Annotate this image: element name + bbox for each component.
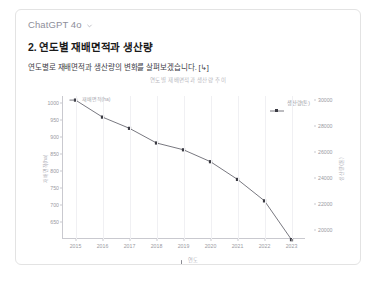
x-tick-label: 2018	[151, 243, 163, 249]
gridline-vertical	[184, 96, 185, 239]
y-tick-mark-left	[60, 136, 62, 137]
x-tick-mark	[237, 239, 238, 241]
model-selector[interactable]: ChatGPT 4o	[28, 19, 93, 30]
chart-plot-area: 2015201620172018201920202021202220231000…	[62, 96, 305, 239]
x-tick-mark	[75, 239, 76, 241]
chart-title: 연도별 재배면적과 생산량 추이	[16, 76, 360, 84]
y-tick-label-left: 800	[50, 168, 59, 174]
x-tick-label: 2021	[232, 243, 244, 249]
y-tick-mark-right	[314, 177, 316, 178]
chart-container: 연도별 재배면적과 생산량 추이 재배면적(ha) 생산량(톤) 생산량(톤) …	[16, 74, 360, 264]
y-tick-label-left: 1000	[47, 100, 59, 106]
y-tick-mark-left	[60, 221, 62, 222]
series-inline-annotation: 재배면적(ha)	[82, 95, 111, 102]
x-tick-mark	[129, 239, 130, 241]
y-tick-mark-right	[314, 151, 316, 152]
section-subtitle: 연도별로 재배면적과 생산량의 변화를 살펴보겠습니다. [↳]	[28, 61, 209, 72]
chevron-down-icon[interactable]	[86, 22, 93, 29]
x-tick-label: 2019	[178, 243, 190, 249]
x-tick-label: 2017	[124, 243, 136, 249]
y-tick-mark-left	[60, 170, 62, 171]
x-tick-mark	[210, 239, 211, 241]
y-tick-mark-right	[314, 203, 316, 204]
gridline-vertical	[265, 96, 266, 239]
y-axis-right-label: 생산량(톤)	[337, 157, 344, 180]
y-tick-label-left: 850	[50, 151, 59, 157]
y-tick-label-left: 950	[50, 117, 59, 123]
y-tick-label-right: 30000	[318, 97, 332, 103]
gridline-vertical	[211, 96, 212, 239]
y-axis-left-label: 재배면적(ha)	[41, 155, 48, 184]
gridline-vertical	[103, 96, 104, 239]
y-tick-label-left: 650	[50, 219, 59, 225]
x-tick-mark	[264, 239, 265, 241]
y-tick-mark-right	[314, 99, 316, 100]
x-tick-label: 2015	[70, 243, 82, 249]
x-axis-label: 연도	[188, 256, 198, 263]
y-tick-label-left: 900	[50, 134, 59, 140]
x-tick-mark	[291, 239, 292, 241]
down-arrow-icon	[178, 255, 185, 264]
gridline-vertical	[238, 96, 239, 239]
y-tick-mark-left	[60, 187, 62, 188]
x-tick-label: 2023	[286, 243, 298, 249]
x-axis-label-group: 연도	[16, 255, 360, 264]
y-tick-label-right: 24000	[318, 175, 332, 181]
y-tick-label-left: 700	[50, 202, 59, 208]
chatgpt-response-card: ChatGPT 4o 2. 연도별 재배면적과 생산량 연도별로 재배면적과 생…	[15, 9, 361, 265]
y-tick-label-right: 28000	[318, 123, 332, 129]
x-tick-label: 2022	[259, 243, 271, 249]
y-tick-label-right: 20000	[318, 227, 332, 233]
y-tick-mark-left	[60, 204, 62, 205]
x-tick-mark	[183, 239, 184, 241]
y-tick-label-right: 26000	[318, 149, 332, 155]
y-tick-mark-left	[60, 102, 62, 103]
section-title: 2. 연도별 재배면적과 생산량	[28, 39, 152, 54]
y-tick-mark-right	[314, 229, 316, 230]
x-tick-label: 2016	[97, 243, 109, 249]
model-name-label: ChatGPT 4o	[28, 19, 82, 30]
y-tick-label-right: 22000	[318, 201, 332, 207]
y-tick-mark-right	[314, 125, 316, 126]
y-tick-mark-left	[60, 119, 62, 120]
x-tick-label: 2020	[205, 243, 217, 249]
x-tick-mark	[102, 239, 103, 241]
gridline-vertical	[130, 96, 131, 239]
gridline-vertical	[76, 96, 77, 239]
x-tick-mark	[156, 239, 157, 241]
gridline-vertical	[292, 96, 293, 239]
y-tick-mark-left	[60, 153, 62, 154]
gridline-vertical	[157, 96, 158, 239]
y-tick-label-left: 750	[50, 185, 59, 191]
